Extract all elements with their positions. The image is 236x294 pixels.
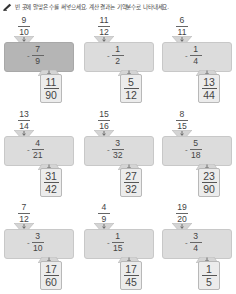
operand-fraction: 3 10 [32, 232, 44, 253]
subtraction-machine-problem-8: 4 9 - 1 15 17 45 [82, 201, 154, 293]
operation-sign: - [185, 145, 188, 154]
operation-machine: - 1 4 [162, 42, 232, 72]
operand-denominator: 4 [193, 57, 198, 66]
input-fraction: 8 15 [174, 110, 190, 131]
answer-box[interactable]: 17 45 [120, 261, 142, 290]
answer-box[interactable]: 5 12 [120, 74, 142, 103]
operation: - 7 9 [27, 45, 44, 66]
subtraction-machine-problem-4: 13 14 - 4 21 31 [2, 108, 74, 200]
operation: - 4 21 [27, 139, 44, 160]
operand-numerator: 1 [115, 232, 120, 241]
operation-sign: - [107, 51, 110, 60]
input-numerator: 15 [99, 110, 109, 119]
result-fraction: 23 90 [202, 171, 217, 194]
result-denominator: 45 [125, 277, 137, 287]
operand-numerator: 5 [193, 139, 198, 148]
result-fraction: 1 5 [202, 264, 217, 287]
result-numerator: 13 [203, 77, 215, 87]
subtraction-machine-problem-5: 15 16 - 3 32 27 [82, 108, 154, 200]
result-numerator: 5 [128, 77, 134, 87]
subtraction-machine-problem-6: 8 15 - 5 18 23 9 [160, 108, 232, 200]
operand-denominator: 4 [193, 244, 198, 253]
answer-box[interactable]: 13 44 [198, 74, 220, 103]
answer-box[interactable]: 23 90 [198, 168, 220, 197]
result-numerator: 17 [45, 264, 57, 274]
operation-sign: - [27, 145, 30, 154]
operation-machine: - 5 18 [162, 136, 232, 166]
result-denominator: 90 [45, 90, 57, 100]
operand-fraction: 5 18 [190, 139, 202, 160]
operation: - 1 2 [107, 45, 124, 66]
operation-sign: - [27, 238, 30, 247]
subtraction-machine-problem-7: 7 12 - 3 10 17 6 [2, 201, 74, 293]
operation-machine: - 3 32 [84, 136, 154, 166]
input-fraction: 11 12 [96, 16, 112, 37]
operand-numerator: 3 [115, 139, 120, 148]
answer-box[interactable]: 1 5 [198, 261, 220, 290]
answer-box[interactable]: 31 42 [40, 168, 62, 197]
operand-numerator: 7 [35, 45, 40, 54]
answer-box[interactable]: 27 32 [120, 168, 142, 197]
operation: - 3 4 [185, 232, 202, 253]
operation: - 1 4 [185, 45, 202, 66]
result-denominator: 44 [203, 90, 215, 100]
pencil-icon [3, 3, 12, 11]
operand-denominator: 18 [191, 151, 201, 160]
operation-sign: - [107, 238, 110, 247]
operation-machine: - 3 10 [4, 229, 74, 259]
operation-sign: - [27, 51, 30, 60]
result-numerator: 27 [125, 171, 137, 181]
operation-sign: - [107, 145, 110, 154]
subtraction-machine-problem-2: 11 12 - 1 2 5 12 [82, 14, 154, 106]
input-numerator: 4 [102, 203, 107, 212]
operation: - 3 32 [107, 139, 124, 160]
input-numerator: 6 [180, 16, 185, 25]
subtraction-machine-problem-9: 19 20 - 3 4 1 5 [160, 201, 232, 293]
instruction-text: 빈 곳에 알맞은 수를 써넣으세요. 계산 결과는 기약분수로 나타내세요. [15, 3, 169, 11]
result-denominator: 90 [203, 184, 215, 194]
input-fraction: 7 12 [16, 203, 32, 224]
operand-fraction: 1 4 [190, 45, 202, 66]
answer-box[interactable]: 17 60 [40, 261, 62, 290]
operation-sign: - [185, 238, 188, 247]
result-fraction: 5 12 [124, 77, 139, 100]
result-fraction: 31 42 [44, 171, 59, 194]
operand-denominator: 32 [113, 151, 123, 160]
result-numerator: 1 [206, 264, 212, 274]
operation-machine: - 7 9 [4, 42, 74, 72]
input-numerator: 13 [19, 110, 29, 119]
result-numerator: 11 [46, 77, 57, 87]
operand-fraction: 4 21 [32, 139, 44, 160]
input-numerator: 11 [100, 16, 109, 25]
result-denominator: 5 [206, 277, 212, 287]
result-denominator: 32 [125, 184, 137, 194]
operand-denominator: 9 [35, 57, 40, 66]
operand-numerator: 1 [193, 45, 198, 54]
result-fraction: 11 90 [44, 77, 59, 100]
input-fraction: 6 11 [174, 16, 190, 37]
input-numerator: 8 [180, 110, 185, 119]
operand-fraction: 1 15 [112, 232, 124, 253]
input-fraction: 13 14 [16, 110, 32, 131]
input-fraction: 19 20 [174, 203, 190, 224]
operand-numerator: 3 [35, 232, 40, 241]
input-numerator: 9 [22, 16, 27, 25]
operation-machine: - 1 15 [84, 229, 154, 259]
operand-denominator: 2 [115, 57, 120, 66]
operation: - 3 10 [27, 232, 44, 253]
result-numerator: 23 [203, 171, 215, 181]
result-fraction: 13 44 [202, 77, 217, 100]
result-fraction: 27 32 [124, 171, 139, 194]
result-numerator: 31 [45, 171, 57, 181]
answer-box: 11 90 [40, 74, 62, 103]
result-fraction: 17 45 [124, 264, 139, 287]
operation: - 5 18 [185, 139, 202, 160]
instruction-header: 빈 곳에 알맞은 수를 써넣으세요. 계산 결과는 기약분수로 나타내세요. [3, 2, 235, 12]
result-denominator: 12 [125, 90, 137, 100]
result-denominator: 42 [45, 184, 57, 194]
input-fraction: 4 9 [96, 203, 112, 224]
operand-numerator: 4 [35, 139, 40, 148]
subtraction-machine-problem-3: 6 11 - 1 4 13 44 [160, 14, 232, 106]
input-fraction: 9 10 [16, 16, 32, 37]
operand-numerator: 1 [115, 45, 120, 54]
